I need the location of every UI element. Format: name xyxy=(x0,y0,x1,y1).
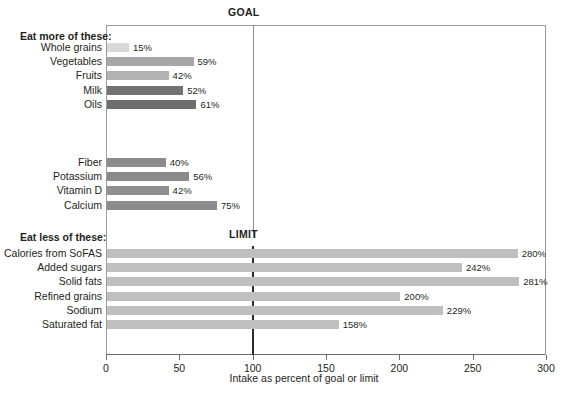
bar xyxy=(107,57,194,66)
x-tick xyxy=(326,355,327,360)
bar-category-label: Sodium xyxy=(0,305,102,316)
bar-category-label: Oils xyxy=(0,99,102,110)
bar-row: Oils61% xyxy=(0,99,570,110)
bar-row: Sodium229% xyxy=(0,305,570,316)
bar xyxy=(107,71,169,80)
x-tick xyxy=(473,355,474,360)
bar-category-label: Fiber xyxy=(0,157,102,168)
bar-value-label: 75% xyxy=(221,200,240,211)
bar-row: Refined grains200% xyxy=(0,291,570,302)
bar-category-label: Added sugars xyxy=(0,262,102,273)
bar-row: Vitamin D42% xyxy=(0,185,570,196)
bar xyxy=(107,263,462,272)
bar xyxy=(107,249,518,258)
bar-value-label: 42% xyxy=(173,70,192,81)
bar xyxy=(107,100,196,109)
bar-category-label: Refined grains xyxy=(0,291,102,302)
bar xyxy=(107,186,169,195)
bar-row: Calcium75% xyxy=(0,200,570,211)
bar-value-label: 242% xyxy=(466,262,490,273)
bar-value-label: 61% xyxy=(200,99,219,110)
bar xyxy=(107,277,519,286)
bar-category-label: Whole grains xyxy=(0,42,102,53)
bar xyxy=(107,43,129,52)
bar xyxy=(107,172,189,181)
bar-row: Saturated fat158% xyxy=(0,319,570,330)
limit-label: LIMIT xyxy=(229,228,258,240)
bar xyxy=(107,292,400,301)
bar-category-label: Vegetables xyxy=(0,56,102,67)
bar-value-label: 158% xyxy=(343,319,367,330)
bar-value-label: 15% xyxy=(133,42,152,53)
bar-row: Whole grains15% xyxy=(0,42,570,53)
x-tick xyxy=(399,355,400,360)
bar-value-label: 42% xyxy=(173,185,192,196)
bar-value-label: 52% xyxy=(187,85,206,96)
bar-row: Calories from SoFAS280% xyxy=(0,248,570,259)
bar-category-label: Calories from SoFAS xyxy=(0,248,102,259)
bar-category-label: Solid fats xyxy=(0,276,102,287)
bar-value-label: 59% xyxy=(198,56,217,67)
goal-label: GOAL xyxy=(228,6,260,18)
x-tick xyxy=(179,355,180,360)
bar-category-label: Saturated fat xyxy=(0,319,102,330)
bar xyxy=(107,201,217,210)
bar xyxy=(107,320,339,329)
x-tick xyxy=(106,355,107,360)
bar-row: Potassium56% xyxy=(0,171,570,182)
bar-row: Vegetables59% xyxy=(0,56,570,67)
bar-category-label: Milk xyxy=(0,85,102,96)
bar-row: Fruits42% xyxy=(0,70,570,81)
bar-value-label: 281% xyxy=(523,276,547,287)
bar-row: Fiber40% xyxy=(0,157,570,168)
bar-row: Solid fats281% xyxy=(0,276,570,287)
bar-category-label: Fruits xyxy=(0,70,102,81)
bar-value-label: 200% xyxy=(404,291,428,302)
bar xyxy=(107,306,443,315)
x-tick xyxy=(253,355,254,360)
bar-value-label: 40% xyxy=(170,157,189,168)
bar-value-label: 229% xyxy=(447,305,471,316)
bar-value-label: 56% xyxy=(193,171,212,182)
bar xyxy=(107,158,166,167)
x-tick xyxy=(546,355,547,360)
bar-row: Added sugars242% xyxy=(0,262,570,273)
bar-value-label: 280% xyxy=(522,248,546,259)
bar-row: Milk52% xyxy=(0,85,570,96)
section-heading-eat-less: Eat less of these: xyxy=(20,231,106,243)
bar-chart: GOAL LIMIT Eat more of these: Eat less o… xyxy=(0,0,570,394)
bar-category-label: Vitamin D xyxy=(0,185,102,196)
bar-category-label: Potassium xyxy=(0,171,102,182)
bar xyxy=(107,86,183,95)
x-axis-title-text: Intake as percent of goal or limit xyxy=(230,372,379,384)
x-axis-title: Intake as percent of goal or limit xyxy=(0,372,570,384)
bar-category-label: Calcium xyxy=(0,200,102,211)
